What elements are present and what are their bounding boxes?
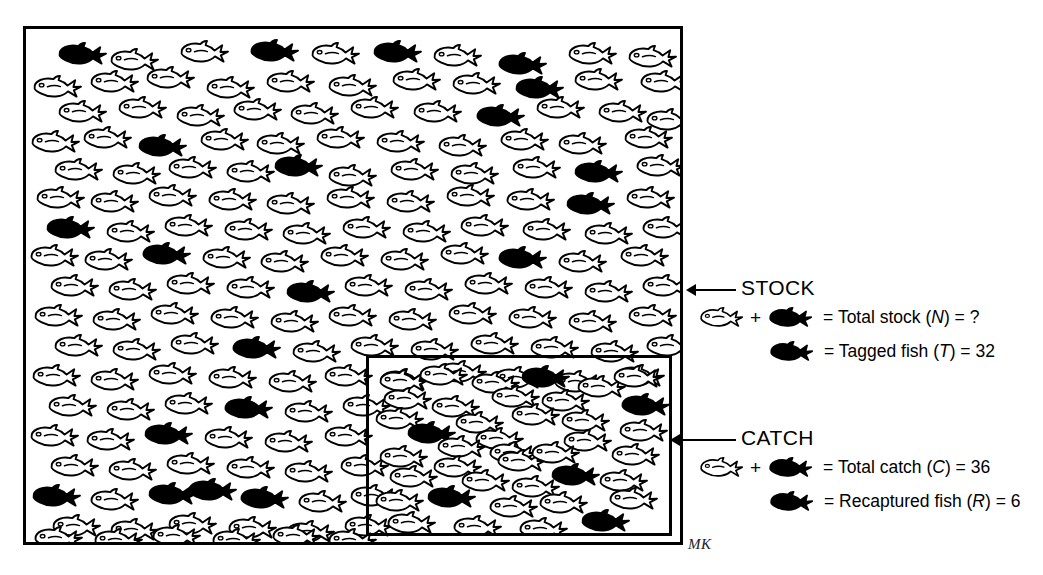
catch-untagged-fish bbox=[509, 402, 561, 428]
stock-tagged-fish bbox=[186, 477, 238, 503]
stock-untagged-fish bbox=[572, 67, 624, 93]
stock-untagged-fish bbox=[82, 247, 134, 273]
stock-untagged-fish bbox=[450, 71, 502, 97]
stock-tagged-fish bbox=[30, 483, 82, 509]
catch-untagged-fish bbox=[495, 448, 547, 474]
stock-untagged-fish bbox=[436, 133, 488, 159]
stock-tagged-fish bbox=[238, 485, 290, 511]
catch-tagged-fish bbox=[619, 392, 671, 418]
stock-tagged-fish bbox=[230, 335, 282, 361]
outline-fish-icon bbox=[698, 456, 744, 479]
catch-tagged-fish bbox=[549, 462, 601, 488]
stock-untagged-fish bbox=[32, 303, 84, 329]
stock-untagged-fish bbox=[431, 43, 483, 69]
stock-tagged-fish bbox=[371, 39, 423, 65]
tagged-fish-text: = Tagged fish (T) = 32 bbox=[824, 343, 995, 361]
diagram-canvas: MK STOCK + = Total bbox=[0, 0, 1043, 575]
stock-untagged-fish bbox=[146, 361, 198, 387]
stock-untagged-fish bbox=[270, 523, 322, 545]
plus-sign: + bbox=[750, 308, 761, 327]
stock-untagged-fish bbox=[314, 125, 366, 151]
catch-tagged-fish bbox=[579, 508, 631, 534]
stock-untagged-fish bbox=[52, 333, 104, 359]
catch-untagged-fish bbox=[451, 514, 503, 536]
stock-untagged-fish bbox=[56, 99, 108, 125]
stock-untagged-fish bbox=[498, 127, 550, 153]
stock-tagged-fish bbox=[572, 159, 624, 185]
stock-tagged-fish bbox=[474, 103, 526, 129]
catch-untagged-fish bbox=[385, 510, 437, 536]
stock-untagged-fish bbox=[446, 301, 498, 327]
stock-tagged-fish bbox=[248, 38, 300, 64]
stock-tagged-fish bbox=[496, 245, 548, 271]
stock-untagged-fish bbox=[104, 219, 156, 245]
stock-untagged-fish bbox=[166, 511, 218, 537]
catch-untagged-fish bbox=[373, 488, 425, 514]
stock-untagged-fish bbox=[309, 41, 361, 67]
stock-untagged-fish bbox=[534, 95, 586, 121]
stock-untagged-fish bbox=[640, 273, 683, 299]
legend-row-total-stock: + = Total stock (N) = ? bbox=[698, 306, 979, 329]
catch-tagged-fish bbox=[425, 484, 477, 510]
stock-tagged-fish bbox=[284, 279, 336, 305]
stock-tagged-fish bbox=[142, 421, 194, 447]
stock-untagged-fish bbox=[266, 369, 318, 395]
stock-untagged-fish bbox=[626, 303, 678, 329]
stock-untagged-fish bbox=[116, 95, 168, 121]
stock-untagged-fish bbox=[448, 161, 500, 187]
stock-untagged-fish bbox=[348, 95, 400, 121]
plus-sign: + bbox=[750, 458, 761, 477]
stock-untagged-fish bbox=[468, 331, 520, 357]
stock-untagged-fish bbox=[318, 243, 370, 269]
catch-tagged-fish bbox=[519, 364, 571, 390]
total-stock-text: = Total stock (N) = ? bbox=[823, 309, 979, 327]
stock-untagged-fish bbox=[386, 307, 438, 333]
stock-untagged-fish bbox=[200, 245, 252, 271]
stock-untagged-fish bbox=[148, 301, 200, 327]
stock-untagged-fish bbox=[618, 243, 670, 269]
catch-fish-layer bbox=[369, 358, 669, 533]
stock-untagged-fish bbox=[324, 185, 376, 211]
stock-untagged-fish bbox=[168, 331, 220, 357]
catch-untagged-fish bbox=[487, 494, 539, 520]
catch-box bbox=[366, 355, 672, 536]
catch-untagged-fish bbox=[377, 368, 429, 394]
black-fish-icon bbox=[768, 490, 814, 513]
stock-untagged-fish bbox=[400, 219, 452, 245]
stock-untagged-fish bbox=[622, 125, 674, 151]
stock-untagged-fish bbox=[106, 277, 158, 303]
catch-untagged-fish bbox=[609, 442, 661, 468]
stock-untagged-fish bbox=[390, 67, 442, 93]
catch-untagged-fish bbox=[509, 474, 561, 500]
stock-untagged-fish bbox=[566, 41, 618, 67]
stock-untagged-fish bbox=[202, 425, 254, 451]
stock-tagged-fish bbox=[44, 215, 96, 241]
stock-untagged-fish bbox=[224, 455, 276, 481]
catch-untagged-fish bbox=[429, 394, 481, 420]
stock-untagged-fish bbox=[258, 249, 310, 275]
catch-untagged-fish bbox=[575, 374, 627, 400]
stock-untagged-fish bbox=[444, 183, 496, 209]
stock-untagged-fish bbox=[164, 271, 216, 297]
stock-untagged-fish bbox=[634, 153, 683, 179]
stock-tagged-fish bbox=[222, 395, 274, 421]
catch-untagged-fish bbox=[387, 464, 439, 490]
stock-tagged-fish bbox=[513, 75, 565, 101]
stock-tagged-fish bbox=[140, 241, 192, 267]
stock-untagged-fish bbox=[162, 213, 214, 239]
stock-untagged-fish bbox=[81, 125, 133, 151]
stock-untagged-fish bbox=[50, 513, 102, 539]
total-catch-text: = Total catch (C) = 36 bbox=[823, 459, 990, 477]
stock-untagged-fish bbox=[262, 429, 314, 455]
stock-untagged-fish bbox=[226, 515, 278, 541]
stock-leader-arrow bbox=[686, 284, 736, 296]
stock-tagged-fish bbox=[564, 191, 616, 217]
stock-untagged-fish bbox=[204, 75, 256, 101]
stock-tagged-fish bbox=[136, 133, 188, 159]
stock-untagged-fish bbox=[504, 187, 556, 213]
legend: STOCK + = Total stock (N) = ? bbox=[683, 0, 1043, 575]
stock-untagged-fish bbox=[644, 107, 683, 133]
stock-untagged-fish bbox=[28, 423, 80, 449]
catch-tagged-fish bbox=[405, 420, 457, 446]
stock-untagged-fish bbox=[224, 275, 276, 301]
